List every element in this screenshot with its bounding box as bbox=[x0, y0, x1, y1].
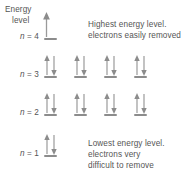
spin-up-arrow-icon bbox=[74, 93, 79, 113]
spin-down-arrow-icon bbox=[51, 135, 56, 155]
spin-up-arrow-icon bbox=[44, 134, 49, 154]
spin-down-arrow-icon bbox=[141, 56, 146, 76]
level-label-n3: n = 3 bbox=[20, 70, 39, 79]
level-label-equals: = bbox=[25, 108, 35, 117]
spin-up-arrow-icon bbox=[44, 93, 49, 113]
spin-up-arrow-icon bbox=[104, 93, 109, 113]
level-label-n2: n = 2 bbox=[20, 108, 39, 117]
orbital-line-n3-3 bbox=[104, 76, 117, 78]
spin-up-arrow-icon bbox=[134, 55, 139, 75]
spin-up-arrow-icon bbox=[104, 55, 109, 75]
note-highest-energy: Highest energy level. electrons easily r… bbox=[88, 19, 181, 41]
spin-down-arrow-icon bbox=[141, 94, 146, 114]
level-label-value: 4 bbox=[34, 32, 39, 41]
orbital-line-n3-1 bbox=[44, 76, 57, 78]
orbital-line-n2-2 bbox=[74, 114, 87, 116]
axis-label-level: level bbox=[12, 16, 29, 27]
electron-pair-n2-1 bbox=[43, 93, 58, 114]
spin-down-arrow-icon bbox=[81, 56, 86, 76]
level-label-value: 3 bbox=[34, 70, 39, 79]
level-label-equals: = bbox=[25, 149, 35, 158]
spin-up-arrow-icon bbox=[74, 55, 79, 75]
orbital-line-n2-1 bbox=[44, 114, 57, 116]
axis-label-energy: Energy bbox=[5, 5, 32, 16]
note-highest-energy-line1: Highest energy level. bbox=[88, 19, 181, 30]
energy-level-diagram: Energy level Highest energy level. elect… bbox=[0, 0, 196, 179]
note-lowest-energy-line3: difficult to remove bbox=[88, 160, 165, 171]
level-label-n4: n = 4 bbox=[20, 32, 39, 41]
energy-axis-up-arrow-icon bbox=[42, 12, 51, 38]
level-label-value: 1 bbox=[34, 149, 39, 158]
note-highest-energy-line2: electrons easily removed bbox=[88, 30, 181, 41]
spin-up-arrow-icon bbox=[44, 55, 49, 75]
spin-down-arrow-icon bbox=[81, 94, 86, 114]
level-label-equals: = bbox=[25, 32, 35, 41]
orbital-line-n2-3 bbox=[104, 114, 117, 116]
electron-pair-n1-1 bbox=[43, 134, 58, 155]
spin-down-arrow-icon bbox=[111, 94, 116, 114]
electron-pair-n2-2 bbox=[73, 93, 88, 114]
level-label-value: 2 bbox=[34, 108, 39, 117]
spin-up-arrow-icon bbox=[134, 93, 139, 113]
orbital-line-n3-4 bbox=[134, 76, 147, 78]
electron-pair-n3-4 bbox=[133, 55, 148, 76]
spin-down-arrow-icon bbox=[51, 56, 56, 76]
note-lowest-energy: Lowest energy level. electrons very diff… bbox=[88, 138, 165, 172]
electron-pair-n2-3 bbox=[103, 93, 118, 114]
level-label-equals: = bbox=[25, 70, 35, 79]
orbital-line-n4-1 bbox=[44, 38, 57, 40]
level-label-n1: n = 1 bbox=[20, 149, 39, 158]
note-lowest-energy-line2: electrons very bbox=[88, 149, 165, 160]
spin-down-arrow-icon bbox=[51, 94, 56, 114]
spin-down-arrow-icon bbox=[111, 56, 116, 76]
electron-pair-n3-2 bbox=[73, 55, 88, 76]
orbital-line-n2-4 bbox=[134, 114, 147, 116]
electron-pair-n2-4 bbox=[133, 93, 148, 114]
orbital-line-n3-2 bbox=[74, 76, 87, 78]
note-lowest-energy-line1: Lowest energy level. bbox=[88, 138, 165, 149]
electron-pair-n3-3 bbox=[103, 55, 118, 76]
orbital-line-n1-1 bbox=[44, 155, 57, 157]
electron-pair-n3-1 bbox=[43, 55, 58, 76]
